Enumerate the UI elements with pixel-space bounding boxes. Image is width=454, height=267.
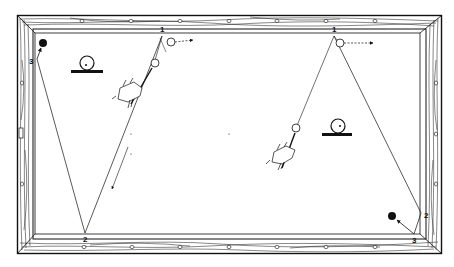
cushion-label: 2 bbox=[424, 211, 429, 220]
cushion-label: 1 bbox=[160, 25, 165, 34]
object-ball-icon bbox=[336, 39, 344, 47]
black-ball-icon bbox=[388, 212, 396, 220]
black-ball-icon bbox=[39, 39, 47, 47]
billiard-diagram: 1 2 3 1 2 3 bbox=[0, 0, 454, 267]
cushion-label: 1 bbox=[332, 25, 337, 34]
cue-ball-icon bbox=[151, 59, 159, 67]
object-ball-icon bbox=[167, 38, 175, 46]
cushion-label: 3 bbox=[412, 236, 417, 245]
cushion-label: 3 bbox=[29, 57, 34, 66]
rail-marker bbox=[19, 128, 23, 138]
cushion-label: 2 bbox=[83, 235, 88, 244]
cue-ball-icon bbox=[292, 124, 300, 132]
